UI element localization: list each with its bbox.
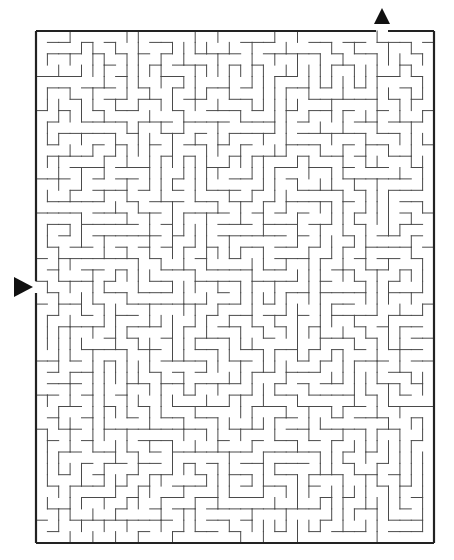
maze-puzzle	[0, 0, 454, 560]
maze-border	[36, 31, 434, 543]
entrance-arrow-icon	[14, 277, 33, 297]
maze-walls	[36, 31, 434, 543]
exit-arrow-icon	[374, 8, 390, 24]
